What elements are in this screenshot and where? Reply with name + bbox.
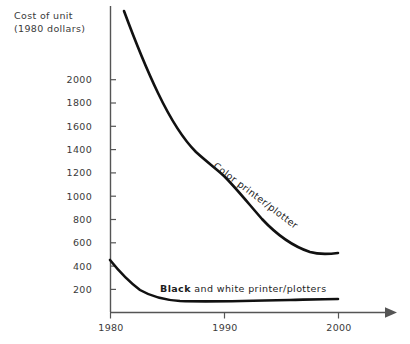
y-tick-1800: 1800 <box>46 97 92 108</box>
series-label-bw-strong: Black <box>160 283 191 294</box>
x-axis <box>110 307 397 318</box>
y-tick-1600: 1600 <box>46 121 92 132</box>
chart-container: Cost of unit (1980 dollars) <box>0 0 410 344</box>
series-label-bw-rest: and white printer/plotters <box>194 283 326 294</box>
x-tick-1990: 1990 <box>205 322 245 333</box>
x-axis-arrow-icon <box>385 307 397 318</box>
x-tick-2000: 2000 <box>319 322 359 333</box>
y-tick-200: 200 <box>46 284 92 295</box>
y-tick-400: 400 <box>46 261 92 272</box>
y-tick-1200: 1200 <box>46 167 92 178</box>
series-line-bw-printer <box>110 260 338 301</box>
y-axis-ticks <box>111 80 117 290</box>
y-tick-2000: 2000 <box>46 74 92 85</box>
x-axis-ticks <box>111 313 339 319</box>
y-tick-1400: 1400 <box>46 144 92 155</box>
y-tick-1000: 1000 <box>46 191 92 202</box>
x-tick-1980: 1980 <box>91 322 131 333</box>
series-line-color-printer <box>124 11 338 254</box>
y-tick-600: 600 <box>46 237 92 248</box>
y-tick-800: 800 <box>46 214 92 225</box>
series-label-bw-printer: Black and white printer/plotters <box>160 283 327 294</box>
